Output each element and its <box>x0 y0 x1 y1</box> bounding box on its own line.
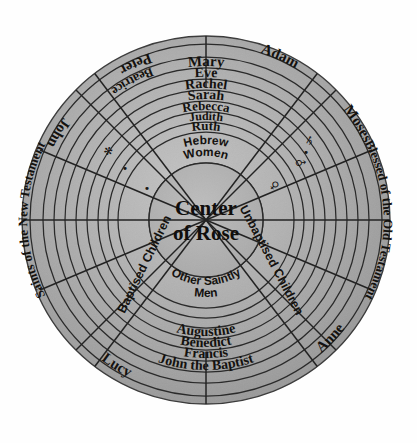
dot-mark-icon-left: • <box>122 162 129 175</box>
ring-label-ruth: Ruth <box>191 118 222 134</box>
center-line-1: Center <box>175 196 237 220</box>
center-line-2: of Rose <box>173 221 239 245</box>
hebrew-women-label: Hebrew Women <box>182 133 230 162</box>
celestial-rose-diagram: Mary Eve Rachel Sarah Rebecca Judith Rut… <box>0 0 417 443</box>
other-saintly-men-line2: Men <box>194 285 218 300</box>
dot-mark-icon-right: • <box>303 146 310 159</box>
center-of-rose-label: Center of Rose <box>173 196 239 245</box>
diagram-canvas: Mary Eve Rachel Sarah Rebecca Judith Rut… <box>0 0 417 443</box>
dot-mark-icon-left-2: • <box>144 182 151 195</box>
